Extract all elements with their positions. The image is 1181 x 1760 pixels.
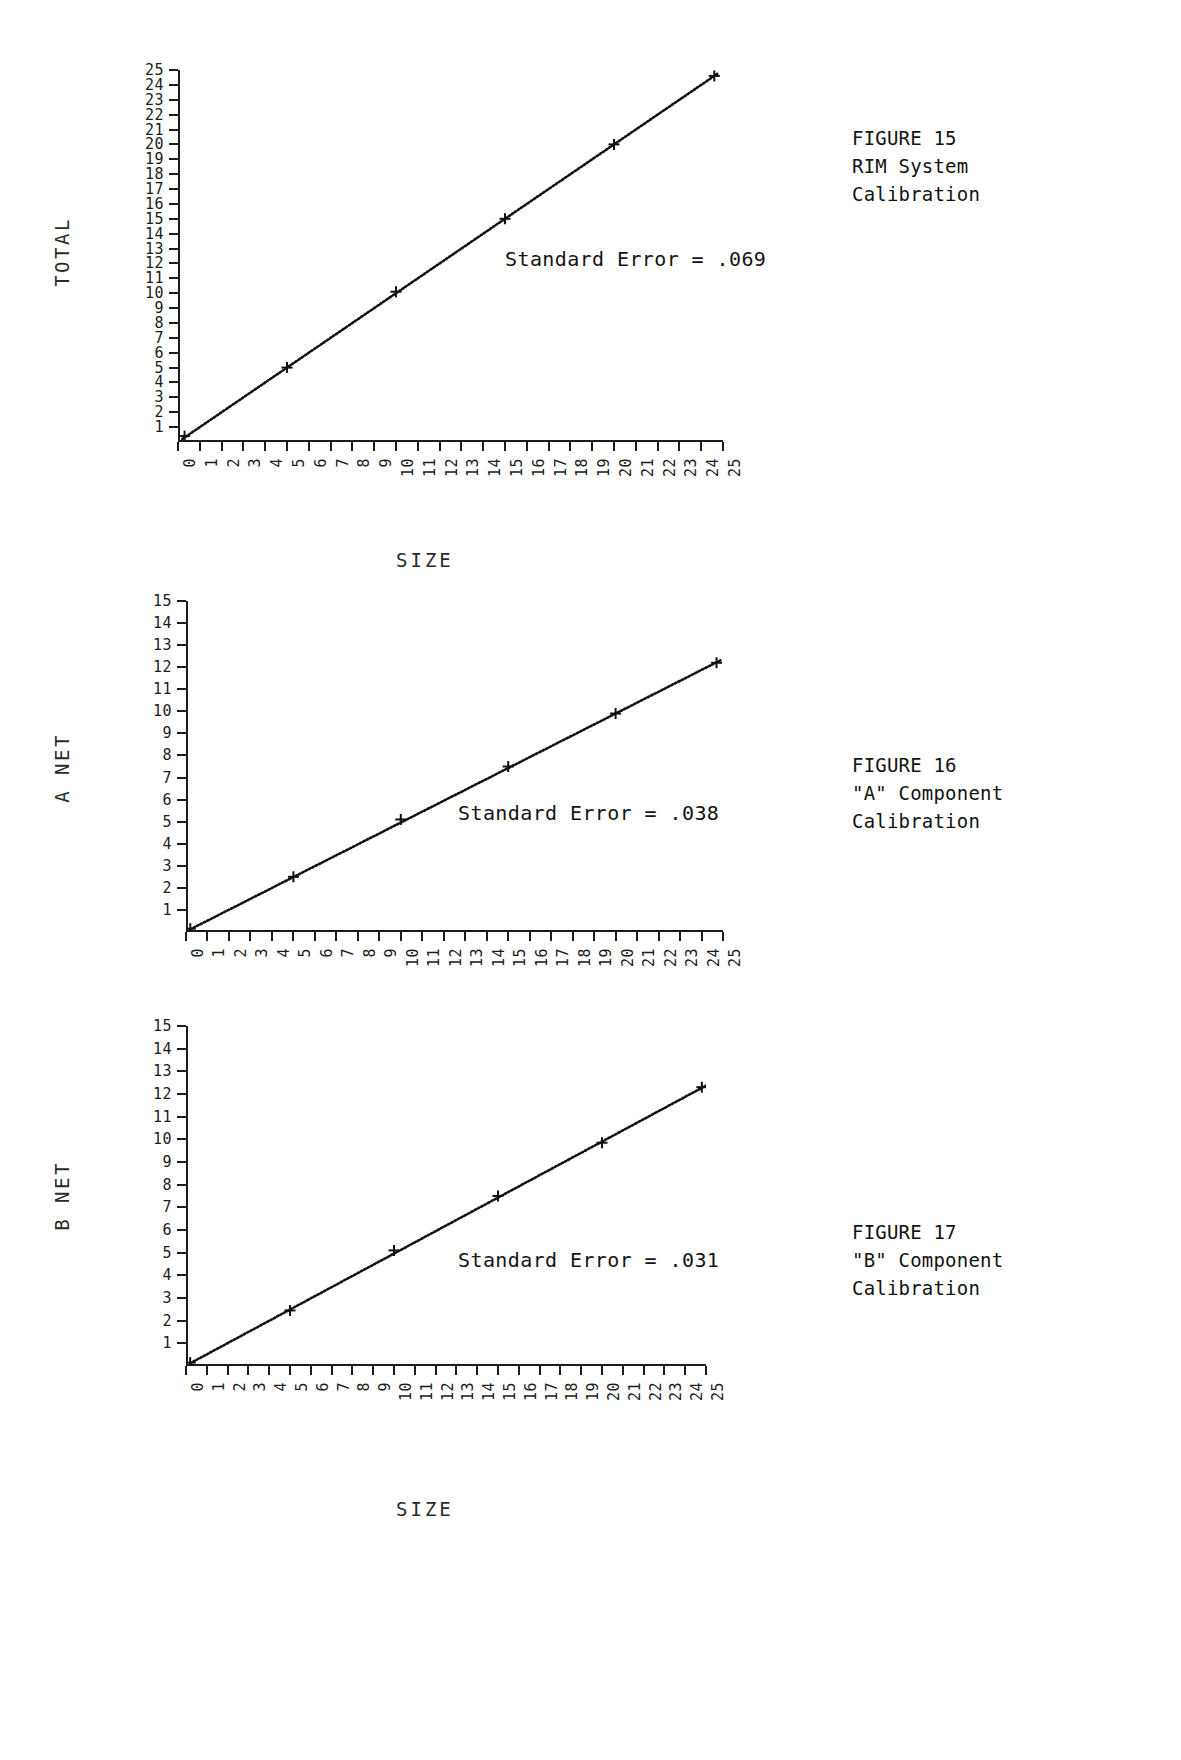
figure-caption-line: FIGURE 17 bbox=[852, 1218, 1003, 1246]
y-tick bbox=[177, 909, 186, 911]
x-tick-label: 5 bbox=[298, 948, 313, 958]
y-tick-label: 5 bbox=[154, 360, 164, 375]
y-tick bbox=[169, 218, 178, 220]
x-tick bbox=[185, 932, 187, 941]
x-tick-label: 3 bbox=[248, 458, 263, 468]
x-tick-label: 25 bbox=[711, 1382, 726, 1401]
figure-caption: FIGURE 15RIM SystemCalibration bbox=[852, 124, 980, 208]
x-tick bbox=[351, 1366, 353, 1375]
x-tick bbox=[177, 442, 179, 451]
x-tick bbox=[613, 442, 615, 451]
y-tick-label: 13 bbox=[153, 638, 172, 653]
x-tick bbox=[615, 932, 617, 941]
x-tick-label: 16 bbox=[535, 948, 550, 967]
plot-frame: 1234567891011121314151617181920212223242… bbox=[178, 70, 723, 442]
x-tick-label: 10 bbox=[399, 1382, 414, 1401]
x-tick bbox=[722, 442, 724, 451]
y-tick bbox=[177, 754, 186, 756]
y-tick-label: 11 bbox=[145, 271, 164, 286]
y-tick bbox=[169, 426, 178, 428]
y-tick bbox=[177, 710, 186, 712]
data-point-marker bbox=[395, 814, 406, 825]
y-tick-label: 13 bbox=[153, 1064, 172, 1079]
y-tick-label: 17 bbox=[145, 182, 164, 197]
x-tick-label: 14 bbox=[482, 1382, 497, 1401]
y-tick bbox=[169, 248, 178, 250]
x-tick-label: 5 bbox=[292, 458, 307, 468]
x-tick-label: 2 bbox=[233, 1382, 248, 1392]
y-tick bbox=[169, 69, 178, 71]
y-tick bbox=[169, 203, 178, 205]
data-point-marker bbox=[597, 1137, 608, 1148]
x-tick-label: 9 bbox=[379, 458, 394, 468]
x-tick-label: 7 bbox=[341, 948, 356, 958]
x-tick-label: 9 bbox=[384, 948, 399, 958]
y-tick-label: 19 bbox=[145, 152, 164, 167]
figure-caption-line: FIGURE 16 bbox=[852, 751, 1003, 779]
y-tick-label: 8 bbox=[162, 1177, 172, 1192]
y-tick bbox=[169, 114, 178, 116]
data-point-marker bbox=[500, 213, 511, 224]
x-tick-label: 15 bbox=[513, 948, 528, 967]
y-tick bbox=[169, 352, 178, 354]
x-tick-label: 14 bbox=[492, 948, 507, 967]
x-tick-label: 25 bbox=[728, 458, 743, 477]
data-point-marker bbox=[610, 708, 621, 719]
x-tick-label: 1 bbox=[212, 948, 227, 958]
y-tick-label: 23 bbox=[145, 92, 164, 107]
x-tick bbox=[700, 442, 702, 451]
data-trace bbox=[186, 601, 723, 932]
x-tick bbox=[185, 1366, 187, 1375]
x-tick bbox=[292, 932, 294, 941]
x-tick bbox=[335, 932, 337, 941]
figure-caption-line: Calibration bbox=[852, 1274, 1003, 1302]
y-axis-title: B NET bbox=[51, 1161, 73, 1231]
y-tick bbox=[177, 1252, 186, 1254]
x-tick bbox=[395, 442, 397, 451]
x-tick bbox=[569, 442, 571, 451]
y-tick-label: 15 bbox=[153, 594, 172, 609]
x-tick bbox=[572, 932, 574, 941]
x-axis-title: SIZE bbox=[396, 1498, 454, 1520]
x-tick-label: 1 bbox=[205, 458, 220, 468]
y-tick-label: 18 bbox=[145, 167, 164, 182]
y-tick bbox=[177, 1297, 186, 1299]
y-tick-label: 9 bbox=[154, 301, 164, 316]
x-tick bbox=[372, 1366, 374, 1375]
y-tick-label: 16 bbox=[145, 196, 164, 211]
y-tick-label: 14 bbox=[153, 1041, 172, 1056]
data-point-marker bbox=[696, 1082, 706, 1093]
y-tick-label: 24 bbox=[145, 77, 164, 92]
x-tick-label: 10 bbox=[406, 948, 421, 967]
x-tick-label: 5 bbox=[295, 1382, 310, 1392]
y-tick bbox=[177, 644, 186, 646]
y-tick-label: 20 bbox=[145, 137, 164, 152]
y-axis-title: A NET bbox=[51, 733, 73, 803]
x-tick bbox=[206, 932, 208, 941]
x-tick bbox=[351, 442, 353, 451]
y-tick bbox=[169, 129, 178, 131]
x-tick-label: 21 bbox=[641, 458, 656, 477]
x-tick bbox=[486, 932, 488, 941]
x-tick-label: 7 bbox=[336, 458, 351, 468]
x-tick bbox=[271, 932, 273, 941]
y-tick-label: 22 bbox=[145, 107, 164, 122]
y-tick-label: 21 bbox=[145, 122, 164, 137]
x-tick bbox=[242, 442, 244, 451]
y-axis-title: TOTAL bbox=[51, 217, 73, 287]
y-tick-label: 5 bbox=[162, 1245, 172, 1260]
y-tick bbox=[177, 1116, 186, 1118]
x-tick-label: 8 bbox=[357, 458, 372, 468]
x-tick bbox=[455, 1366, 457, 1375]
y-tick-label: 7 bbox=[162, 1200, 172, 1215]
x-tick-label: 6 bbox=[316, 1382, 331, 1392]
x-tick bbox=[526, 442, 528, 451]
x-tick-label: 4 bbox=[277, 948, 292, 958]
x-tick-label: 6 bbox=[314, 458, 329, 468]
y-axis-line bbox=[186, 601, 188, 932]
x-tick-label: 24 bbox=[706, 458, 721, 477]
figure-caption: FIGURE 16"A" ComponentCalibration bbox=[852, 751, 1003, 835]
x-tick-label: 3 bbox=[255, 948, 270, 958]
y-tick bbox=[169, 262, 178, 264]
figure-caption-line: Calibration bbox=[852, 807, 1003, 835]
